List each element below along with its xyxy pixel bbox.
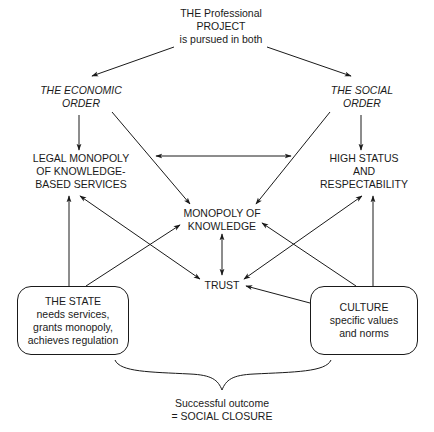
edge-status-trust: [244, 196, 362, 279]
edge-legal-trust: [80, 196, 200, 279]
edge-culture-to-knowledge: [262, 223, 356, 286]
legal-line-2: OF KNOWLEDGE-: [33, 165, 129, 178]
knowledge-line-1: MONOPOLY OF: [183, 207, 260, 220]
knowledge-line-2: KNOWLEDGE: [183, 220, 260, 233]
social-line-2: ORDER: [331, 97, 393, 110]
state-box: THE STATE needs services, grants monopol…: [17, 286, 129, 355]
state-line-3: grants monopoly,: [33, 321, 113, 334]
title-line-3: is pursued in both: [180, 33, 263, 46]
legal-line-3: BASED SERVICES: [33, 178, 129, 191]
title-line-1: THE Professional: [180, 7, 263, 20]
edge-title-to-economic: [92, 47, 174, 76]
status-line-3: RESPECTABILITY: [320, 178, 408, 191]
legal-monopoly-node: LEGAL MONOPOLY OF KNOWLEDGE- BASED SERVI…: [33, 152, 129, 191]
economic-line-2: ORDER: [40, 97, 122, 110]
high-status-node: HIGH STATUS AND RESPECTABILITY: [320, 152, 408, 191]
culture-line-3: and norms: [339, 327, 389, 340]
trust-node: TRUST: [205, 279, 240, 292]
edge-title-to-social: [267, 47, 351, 76]
state-line-1: THE STATE: [45, 295, 101, 308]
edge-culture-to-trust: [246, 286, 310, 303]
status-line-2: AND: [320, 165, 408, 178]
state-line-4: achieves regulation: [28, 334, 118, 347]
outcome-line-2: = SOCIAL CLOSURE: [172, 410, 273, 423]
social-order-node: THE SOCIAL ORDER: [331, 84, 393, 110]
state-line-2: needs services,: [37, 308, 110, 321]
title-node: THE Professional PROJECT is pursued in b…: [180, 7, 263, 46]
trust-line-1: TRUST: [205, 279, 240, 292]
status-line-1: HIGH STATUS: [320, 152, 408, 165]
outcome-brace: [115, 360, 331, 390]
culture-line-1: CULTURE: [340, 301, 389, 314]
outcome-node: Successful outcome = SOCIAL CLOSURE: [172, 397, 273, 423]
edge-social-to-knowledge: [256, 112, 330, 204]
monopoly-knowledge-node: MONOPOLY OF KNOWLEDGE: [183, 207, 260, 233]
title-line-2: PROJECT: [180, 20, 263, 33]
culture-line-2: specific values: [330, 314, 398, 327]
economic-line-1: THE ECONOMIC: [40, 84, 122, 97]
economic-order-node: THE ECONOMIC ORDER: [40, 84, 122, 110]
culture-box: CULTURE specific values and norms: [310, 286, 418, 355]
legal-line-1: LEGAL MONOPOLY: [33, 152, 129, 165]
outcome-line-1: Successful outcome: [172, 397, 273, 410]
social-line-1: THE SOCIAL: [331, 84, 393, 97]
